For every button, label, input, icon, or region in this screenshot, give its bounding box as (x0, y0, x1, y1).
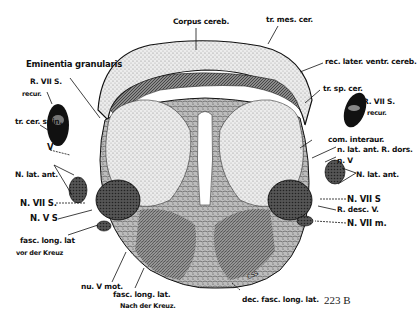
label-fasc-long-lat-nach: fasc. long. lat. (113, 291, 170, 299)
label-n-vii-s-right: N. VII S (347, 195, 381, 204)
label-v: V (47, 143, 53, 152)
label-recur-right: recur. (367, 110, 387, 117)
label-rec-later-ventr-cereb: rec. later. ventr. cereb. (325, 58, 417, 66)
label-r-vii-s-right: R. VII S. (363, 98, 395, 106)
label-n-lat-ant-right: N. lat. ant. (356, 171, 399, 179)
label-com-interaur: com. interaur. (328, 136, 384, 144)
label-n-v: n. V (337, 157, 353, 165)
label-r-desc-v: R. desc. V. (337, 206, 379, 214)
label-corpus-cereb: Corpus cereb. (173, 18, 229, 26)
ventricle (197, 112, 212, 206)
label-eminentia-granularis: Eminentia granularis (26, 60, 122, 69)
label-tr-sp-cer: tr. sp. cer. (323, 85, 363, 93)
label-n-vii-m: N. VII m. (347, 219, 386, 228)
label-nach-der-kreuz: Nach der Kreuz. (120, 303, 176, 310)
label-vor-der-kreuz: vor der Kreuz (16, 250, 63, 257)
label-n-v-s: N. V S (30, 214, 58, 223)
n-vii-s-left-nucleus (96, 180, 140, 220)
label-recur-left: recur. (22, 91, 42, 98)
figure-number: 223 B (324, 294, 351, 306)
label-fasc-long-lat-vor: fasc. long. lat (20, 237, 75, 245)
label-tr-mes-cer: tr. mes. cer. (266, 16, 313, 24)
label-r-vii-s-left: R. VII S. (30, 78, 62, 86)
label-n-lat-ant-r-dors: n. lat. ant. R. dors. (337, 146, 413, 154)
label-dec-fasc-long-lat: dec. fasc. long. lat. (242, 296, 319, 304)
label-n-vii-s-left: N. VII S. (20, 199, 57, 208)
label-n-lat-ant-left: N. lat. ant. (15, 171, 58, 179)
label-tr-cer-spin: tr. cer. spin. (15, 118, 62, 126)
